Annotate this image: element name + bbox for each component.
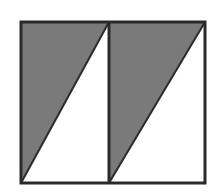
diagram-canvas	[0, 0, 221, 192]
